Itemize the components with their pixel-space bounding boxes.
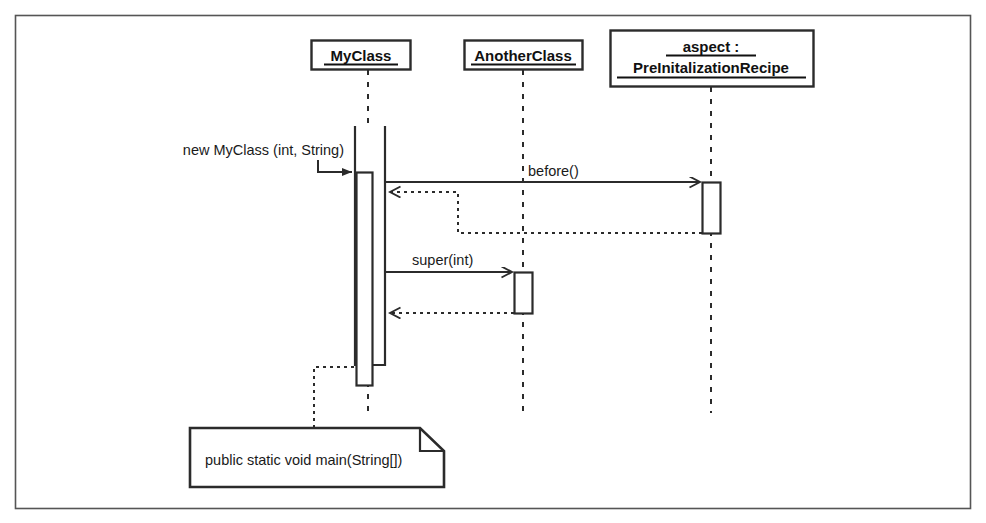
message-constructor-label: new MyClass (int, String)	[183, 142, 344, 158]
activation-myclass-inner	[357, 173, 373, 386]
activation-anotherclass	[515, 273, 533, 314]
lifeline-anotherclass-label: AnotherClass	[474, 47, 572, 64]
message-super-label: super(int)	[412, 252, 473, 268]
lifeline-aspect-label-line2: PreInitalizationRecipe	[633, 59, 789, 76]
sequence-diagram: MyClass AnotherClass aspect : PreInitali…	[0, 0, 986, 523]
diagram-canvas: MyClass AnotherClass aspect : PreInitali…	[0, 0, 986, 523]
activation-aspect	[703, 183, 721, 234]
message-before-label: before()	[528, 163, 579, 179]
lifeline-aspect-label-line1: aspect :	[683, 38, 740, 55]
note-text: public static void main(String[])	[205, 452, 402, 468]
lifeline-myclass-label: MyClass	[331, 47, 392, 64]
note-main-method: public static void main(String[])	[190, 428, 444, 487]
figure-border	[16, 16, 971, 509]
